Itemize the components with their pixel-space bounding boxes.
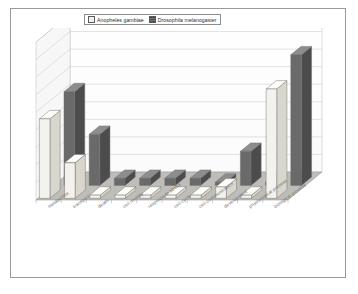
legend-label: Drosophila melanogaster — [158, 17, 217, 23]
chart-figure: Anopheles gambiae Drosophila melanogaste… — [0, 0, 358, 294]
legend-item-drosophila-melanogaster: Drosophila melanogaster — [149, 16, 217, 23]
legend-item-anopheles-gambiae: Anopheles gambiae — [88, 16, 144, 23]
legend-swatch-icon — [149, 16, 156, 23]
chart-legend: Anopheles gambiae Drosophila melanogaste… — [84, 14, 221, 25]
legend-swatch-icon — [88, 16, 95, 23]
legend-label: Anopheles gambiae — [97, 17, 144, 23]
